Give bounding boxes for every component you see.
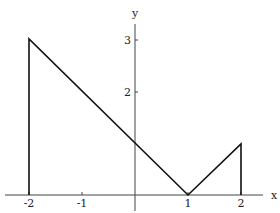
x-tick-label: -2 (24, 197, 35, 210)
y-tick-label: 3 (124, 34, 131, 47)
x-axis-label: x (271, 189, 278, 202)
x-tick-label: -1 (77, 197, 88, 210)
y-tick-label: 2 (124, 86, 131, 99)
y-axis-label: y (131, 7, 139, 20)
plot: -2 -1 1 2 2 3 x y (0, 0, 280, 213)
x-tick-label: 1 (185, 197, 192, 210)
x-tick-label: 2 (238, 197, 245, 210)
